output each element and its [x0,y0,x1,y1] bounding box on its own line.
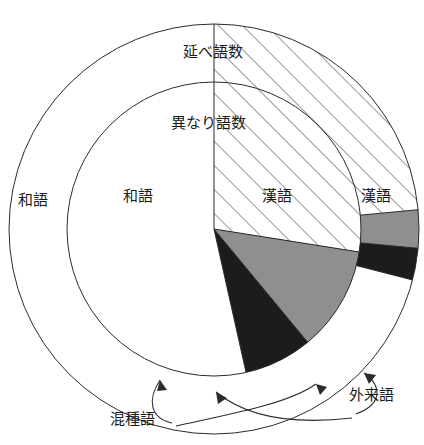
pie-chart-svg: 延べ語数 異なり語数 和語 和語 漢語 漢語 混種語 外来語 [0,0,424,445]
label-wago-inner: 和語 [123,188,153,204]
label-konshugo-callout: 混種語 [110,411,155,427]
label-outer-title: 延べ語数 [183,44,243,60]
label-wago-outer: 和語 [18,192,48,208]
vocabulary-composition-chart: 延べ語数 異なり語数 和語 和語 漢語 漢語 混種語 外来語 [0,0,424,445]
label-inner-title: 異なり語数 [171,115,246,131]
label-kango-outer: 漢語 [361,188,391,204]
label-gairaigo-callout: 外来語 [349,387,394,403]
label-kango-inner: 漢語 [262,188,292,204]
